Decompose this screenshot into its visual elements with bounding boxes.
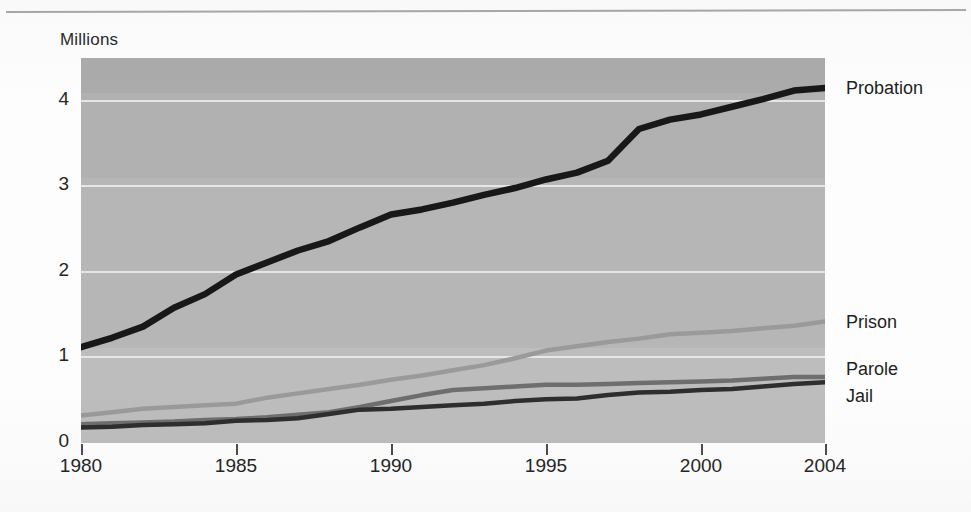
series-line-probation: [81, 88, 825, 347]
x-tick-label-1990: 1990: [356, 455, 426, 477]
x-tick-label-2000: 2000: [666, 455, 736, 477]
x-tick-mark-2000: [701, 444, 703, 455]
series-label-parole: Parole: [846, 359, 898, 380]
x-tick-mark-1985: [236, 444, 238, 455]
page-top-rule: [6, 9, 966, 13]
y-tick-label-1: 1: [33, 344, 69, 366]
x-tick-label-1980: 1980: [46, 455, 116, 477]
series-line-parole: [81, 377, 825, 424]
x-tick-mark-2004: [825, 444, 827, 455]
series-label-probation: Probation: [846, 78, 923, 99]
y-tick-label-0: 0: [33, 430, 69, 452]
y-tick-label-4: 4: [33, 88, 69, 110]
series-lines: [81, 58, 825, 443]
y-tick-label-3: 3: [33, 173, 69, 195]
series-label-prison: Prison: [846, 312, 897, 333]
x-tick-mark-1990: [391, 444, 393, 455]
x-tick-mark-1995: [546, 444, 548, 455]
chart-page: Millions 01234 198019851990199520002004 …: [0, 0, 971, 512]
plot-area: [81, 58, 825, 443]
y-tick-label-2: 2: [33, 259, 69, 281]
x-tick-label-1995: 1995: [511, 455, 581, 477]
x-tick-label-1985: 1985: [201, 455, 271, 477]
y-axis-unit-label: Millions: [60, 30, 118, 50]
x-tick-label-2004: 2004: [790, 455, 860, 477]
series-line-prison: [81, 322, 825, 416]
x-tick-mark-1980: [81, 444, 83, 455]
series-label-jail: Jail: [846, 386, 873, 407]
